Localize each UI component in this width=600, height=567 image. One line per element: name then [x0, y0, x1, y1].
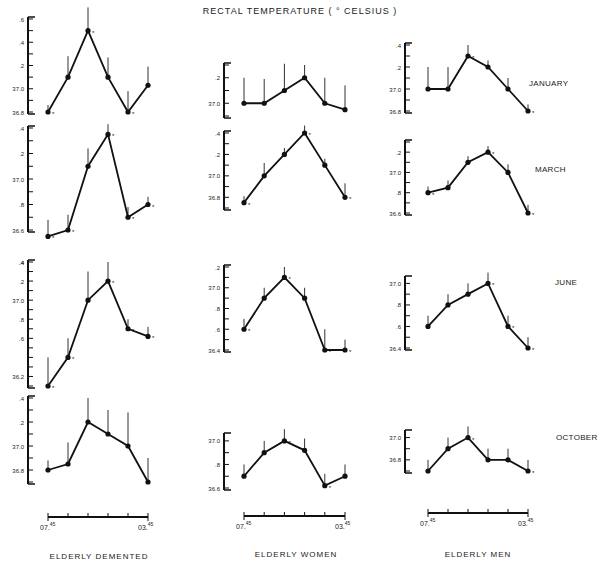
y-tick-label: .4 [19, 260, 25, 266]
significance-marker: * [349, 196, 352, 202]
y-tick-label: 37.0 [389, 435, 401, 441]
data-point [525, 468, 530, 473]
data-point [145, 83, 150, 88]
x-start-label: 07.45 [40, 521, 56, 531]
data-point [241, 474, 246, 479]
data-line [244, 277, 345, 350]
data-point [445, 86, 450, 91]
data-point [465, 160, 470, 165]
panel-january-elderly-demented: 36.837.0.2.4.6*** [12, 7, 150, 117]
y-tick-label: .2 [215, 265, 221, 271]
data-point [85, 298, 90, 303]
data-point [505, 86, 510, 91]
data-point [445, 446, 450, 451]
data-point [485, 150, 490, 155]
y-tick-label: .2 [396, 65, 402, 71]
data-line [428, 152, 528, 213]
y-tick-label: .2 [215, 152, 221, 158]
data-point [505, 170, 510, 175]
significance-marker: * [492, 151, 495, 157]
y-tick-label: 37.0 [12, 444, 24, 450]
x-axis-2: 07.4503.45 [420, 509, 534, 527]
significance-marker: * [492, 282, 495, 288]
x-axis-0: 07.4503.45 [40, 513, 154, 531]
y-tick-label: 36.6 [389, 211, 401, 217]
significance-marker: * [349, 349, 352, 355]
data-line [244, 441, 345, 486]
data-point [145, 334, 150, 339]
y-tick-label: .8 [396, 302, 402, 308]
y-tick-label: .2 [19, 420, 25, 426]
x-end-label: 03.45 [138, 521, 154, 531]
significance-marker: * [532, 347, 535, 353]
data-line [244, 133, 345, 203]
significance-marker: * [52, 235, 55, 241]
data-point [525, 210, 530, 215]
data-point [302, 296, 307, 301]
data-point [125, 326, 130, 331]
data-point [485, 457, 490, 462]
data-point [425, 468, 430, 473]
data-point [145, 202, 150, 207]
y-tick-label: .6 [19, 336, 25, 342]
significance-marker: * [532, 470, 535, 476]
data-point [322, 483, 327, 488]
data-point [105, 132, 110, 137]
significance-marker: * [52, 111, 55, 117]
data-point [125, 443, 130, 448]
significance-marker: * [472, 437, 475, 443]
y-tick-label: .2 [19, 279, 25, 285]
significance-marker: * [52, 385, 55, 391]
data-point [282, 275, 287, 280]
panel-october-elderly-women: 36.6.837.0** [208, 429, 347, 491]
data-point [342, 347, 347, 352]
significance-marker: * [329, 485, 332, 491]
panel-march-elderly-women: 36.837.0.2.4*** [208, 126, 352, 211]
y-tick-label: .6 [215, 327, 221, 333]
significance-marker: * [152, 204, 155, 210]
y-tick-label: .2 [19, 63, 25, 69]
data-point [105, 278, 110, 283]
data-point [65, 227, 70, 232]
y-tick-label: .6 [396, 324, 402, 330]
data-point [302, 75, 307, 80]
data-point [485, 281, 490, 286]
data-point [241, 327, 246, 332]
data-point [105, 431, 110, 436]
panel-march-elderly-demented: 36.6.837.0.2.4***** [12, 124, 155, 241]
significance-marker: * [288, 440, 291, 446]
data-point [45, 467, 50, 472]
y-tick-label: .4 [19, 40, 25, 46]
y-tick-label: .6 [19, 17, 25, 23]
data-point [85, 164, 90, 169]
panel-january-elderly-women: 37.0.2 [208, 63, 347, 118]
data-point [125, 109, 130, 114]
y-tick-label: .8 [215, 462, 221, 468]
data-point [45, 109, 50, 114]
y-tick-label: 36.8 [208, 195, 220, 201]
y-tick-label: 36.8 [12, 110, 24, 116]
x-start-label: 07.45 [236, 520, 252, 530]
data-point [322, 347, 327, 352]
data-point [85, 28, 90, 33]
panel-june-elderly-demented: 36.2.4.6.837.0.2.4***** [12, 260, 155, 392]
data-point [525, 345, 530, 350]
data-point [465, 53, 470, 58]
y-tick-label: 37.0 [389, 281, 401, 287]
data-point [105, 75, 110, 80]
data-point [342, 195, 347, 200]
data-point [262, 173, 267, 178]
y-tick-label: 37.0 [12, 86, 24, 92]
y-tick-label: 36.4 [389, 346, 401, 352]
data-point [65, 355, 70, 360]
panel-october-elderly-men: 36.837.0** [389, 426, 535, 476]
data-point [445, 302, 450, 307]
significance-marker: * [288, 276, 291, 282]
data-point [465, 292, 470, 297]
data-point [65, 75, 70, 80]
y-tick-label: 37.0 [208, 438, 220, 444]
data-point [465, 435, 470, 440]
x-axis-1: 07.4503.45 [236, 512, 351, 530]
data-point [241, 200, 246, 205]
data-point [342, 107, 347, 112]
